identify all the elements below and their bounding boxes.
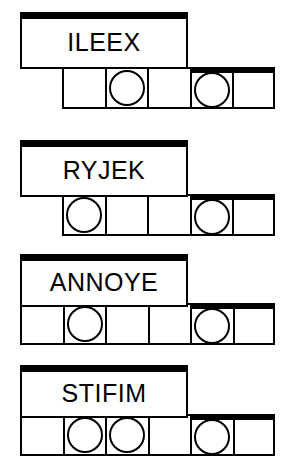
word-label-box: STIFIM — [20, 365, 188, 418]
circle-marker-icon — [109, 70, 145, 106]
circle-marker-icon — [66, 197, 102, 233]
answer-cell[interactable] — [190, 67, 233, 109]
circle-marker-icon — [67, 306, 103, 342]
word-label-text: RYJEK — [63, 158, 146, 185]
word-label-box: ILEEX — [20, 12, 188, 69]
circle-marker-icon — [194, 308, 230, 344]
answer-cell-strip — [20, 303, 275, 345]
answer-cell-strip — [20, 414, 275, 456]
circle-marker-icon — [109, 417, 145, 453]
answer-cell[interactable] — [190, 194, 233, 236]
answer-cell[interactable] — [20, 303, 63, 345]
answer-cell-strip — [62, 194, 275, 236]
answer-cell[interactable] — [148, 414, 191, 456]
word-label-text: STIFIM — [62, 381, 147, 408]
circle-marker-icon — [194, 199, 230, 235]
answer-cell[interactable] — [105, 414, 148, 456]
answer-cell[interactable] — [105, 67, 148, 109]
answer-cell[interactable] — [233, 303, 276, 345]
word-label-box: RYJEK — [20, 140, 188, 197]
word-label-box: ANNOYE — [20, 254, 188, 307]
answer-cell[interactable] — [147, 67, 190, 109]
answer-cell[interactable] — [232, 67, 275, 109]
answer-cell[interactable] — [62, 194, 105, 236]
circle-marker-icon — [194, 419, 230, 455]
word-label-text: ILEEX — [67, 30, 140, 57]
answer-cell[interactable] — [190, 414, 233, 456]
circle-marker-icon — [67, 417, 103, 453]
answer-cell[interactable] — [232, 194, 275, 236]
answer-cell[interactable] — [105, 194, 148, 236]
answer-cell[interactable] — [20, 414, 63, 456]
answer-cell[interactable] — [190, 303, 233, 345]
answer-cell[interactable] — [147, 194, 190, 236]
answer-cell[interactable] — [148, 303, 191, 345]
answer-cell[interactable] — [63, 414, 106, 456]
answer-cell[interactable] — [62, 67, 105, 109]
answer-cell[interactable] — [63, 303, 106, 345]
answer-cell[interactable] — [233, 414, 276, 456]
answer-cell-strip — [62, 67, 275, 109]
answer-cell[interactable] — [105, 303, 148, 345]
circle-marker-icon — [194, 72, 230, 108]
word-label-text: ANNOYE — [50, 270, 159, 297]
puzzle-sheet: ILEEXRYJEKANNOYESTIFIM — [0, 0, 296, 470]
